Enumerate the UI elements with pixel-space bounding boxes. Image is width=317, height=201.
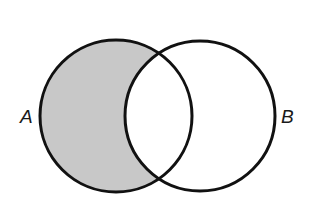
venn-diagram (0, 0, 317, 201)
venn-figure: A: All A is B. A B (0, 0, 317, 201)
circle-b-label: B (281, 107, 294, 126)
region-a-only-shaded (0, 0, 317, 201)
circle-a-label: A (20, 107, 33, 126)
